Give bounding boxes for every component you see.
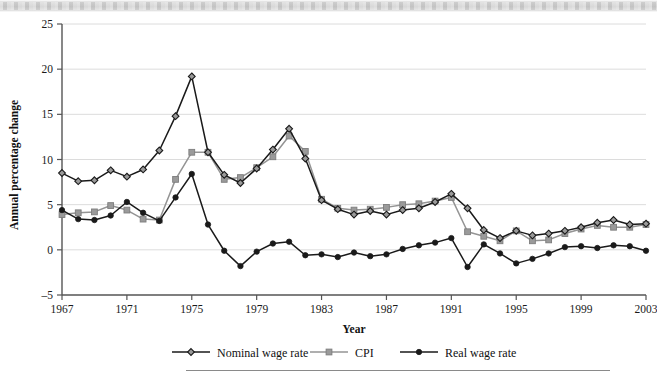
x-axis-title: Year [343,323,366,335]
circle-filled-icon [481,242,486,247]
circle-filled-icon [627,244,632,249]
square-filled-icon [189,149,195,155]
square-filled-icon [481,233,487,239]
chart-canvas: –50510152025 196719711975197919831987199… [0,0,657,387]
y-tick-label: 10 [42,154,54,166]
square-filled-icon [611,224,617,230]
circle-filled-icon [514,261,519,266]
square-filled-icon [173,176,179,182]
x-tick-label: 1995 [505,303,528,315]
circle-filled-icon [270,241,275,246]
y-tick-label: 5 [47,199,53,211]
square-filled-icon [326,349,332,355]
circle-filled-icon [530,256,535,261]
y-axis-title: Annual percentage change [8,100,21,230]
circle-filled-icon [595,245,600,250]
circle-filled-icon [416,349,421,354]
circle-filled-icon [432,240,437,245]
circle-filled-icon [643,248,648,253]
circle-filled-icon [59,207,64,212]
circle-filled-icon [108,213,113,218]
diamond-open-icon [188,349,195,356]
x-tick-label: 1975 [180,303,203,315]
circle-filled-icon [497,251,502,256]
y-tick-label: 15 [42,108,54,120]
circle-filled-icon [416,243,421,248]
x-tick-label: 1983 [310,303,333,315]
x-tick-label: 1971 [115,303,138,315]
square-filled-icon [546,237,552,243]
diamond-open-icon [188,73,195,80]
legend-item-cpi[interactable]: CPI [310,346,374,360]
square-filled-icon [384,204,390,210]
circle-filled-icon [562,244,567,249]
circle-filled-icon [205,222,210,227]
x-axis-ticks: 1967197119751979198319871991199519992003 [51,295,657,315]
square-filled-icon [465,229,471,235]
circle-filled-icon [286,239,291,244]
circle-filled-icon [238,263,243,268]
circle-filled-icon [157,218,162,223]
x-tick-label: 1987 [375,303,398,315]
diamond-open-icon [59,170,66,177]
circle-filled-icon [140,210,145,215]
x-tick-label: 1991 [440,303,463,315]
circle-filled-icon [335,254,340,259]
circle-filled-icon [351,250,356,255]
diamond-open-icon [610,217,617,224]
circle-filled-icon [92,217,97,222]
circle-filled-icon [76,216,81,221]
diamond-open-icon [75,178,82,185]
line-chart: –50510152025 196719711975197919831987199… [0,0,657,387]
data-series [59,73,650,270]
x-tick-label: 1979 [245,303,268,315]
diamond-open-icon [545,230,552,237]
circle-filled-icon [124,199,129,204]
circle-filled-icon [189,171,194,176]
circle-filled-icon [400,246,405,251]
series-nominal-wage-rate [59,73,650,241]
square-filled-icon [270,154,276,160]
circle-filled-icon [546,251,551,256]
y-tick-label: 25 [42,18,54,30]
circle-filled-icon [222,248,227,253]
series-cpi [59,133,649,244]
y-tick-label: 0 [47,244,53,256]
y-tick-label: 20 [42,63,54,75]
y-tick-label: –5 [41,289,54,301]
diamond-open-icon [383,211,390,218]
circle-filled-icon [384,252,389,257]
square-filled-icon [92,209,98,215]
square-filled-icon [108,203,114,209]
circle-filled-icon [254,249,259,254]
legend-label: CPI [355,346,374,360]
diamond-open-icon [172,113,179,120]
x-tick-label: 1967 [51,303,74,315]
circle-filled-icon [303,253,308,258]
legend-label: Nominal wage rate [217,346,308,360]
circle-filled-icon [173,195,178,200]
legend-item-nominal-wage-rate[interactable]: Nominal wage rate [172,346,308,360]
legend-label: Real wage rate [445,346,516,360]
footer-divider-rule [186,370,610,371]
diamond-open-icon [91,177,98,184]
circle-filled-icon [465,264,470,269]
series-real-wage-rate [59,171,648,269]
circle-filled-icon [319,252,324,257]
y-axis-ticks: –50510152025 [41,18,63,301]
square-filled-icon [140,216,146,222]
legend: Nominal wage rateCPIReal wage rate [172,346,516,360]
square-filled-icon [124,207,130,213]
square-filled-icon [75,210,81,216]
x-tick-label: 2003 [635,303,657,315]
series-path [62,136,646,241]
circle-filled-icon [368,253,373,258]
diamond-open-icon [123,173,130,180]
circle-filled-icon [449,235,454,240]
circle-filled-icon [611,243,616,248]
diamond-open-icon [107,167,114,174]
circle-filled-icon [578,244,583,249]
legend-item-real-wage-rate[interactable]: Real wage rate [400,346,516,360]
x-tick-label: 1999 [570,303,593,315]
